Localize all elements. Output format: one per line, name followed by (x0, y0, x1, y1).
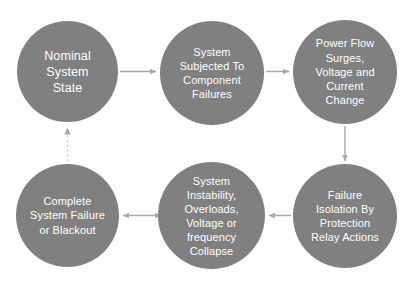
node-failure-isolation-by-protection-relay-actions[interactable]: Failure Isolation By Protection Relay Ac… (293, 164, 397, 268)
node-label: System Instability, Overloads, Voltage o… (178, 174, 244, 258)
flowchart-canvas: Nominal System State System Subjected To… (0, 0, 406, 286)
node-label: Power Flow Surges, Voltage and Current C… (309, 36, 380, 107)
node-system-instability-overloads[interactable]: System Instability, Overloads, Voltage o… (158, 162, 265, 269)
node-label: System Subjected To Component Failures (174, 45, 251, 102)
node-nominal-system-state[interactable]: Nominal System State (17, 21, 118, 122)
node-complete-system-failure-or-blackout[interactable]: Complete System Failure or Blackout (16, 164, 119, 267)
node-system-subjected-to-component-failures[interactable]: System Subjected To Component Failures (160, 21, 264, 125)
node-power-flow-surges[interactable]: Power Flow Surges, Voltage and Current C… (293, 20, 397, 124)
node-label: Nominal System State (38, 48, 97, 96)
node-label: Failure Isolation By Protection Relay Ac… (305, 188, 385, 245)
node-label: Complete System Failure or Blackout (24, 194, 111, 237)
